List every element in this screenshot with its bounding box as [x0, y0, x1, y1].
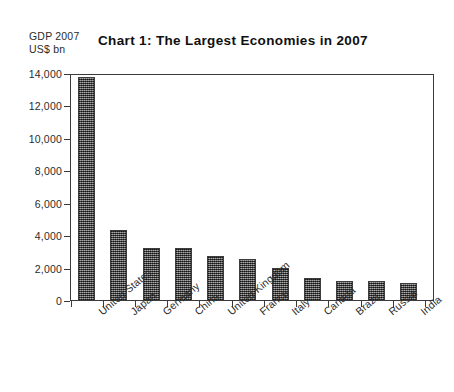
y-tick-label: 12,000: [0, 100, 62, 112]
x-tick-label: Russia: [386, 308, 394, 317]
x-tick-label: United Kingdom: [225, 308, 233, 317]
x-tick-label: Italy: [289, 308, 297, 317]
x-tick-mark: [71, 301, 72, 307]
y-tick-label: 0: [0, 295, 62, 307]
x-tick-label: India: [418, 308, 426, 317]
x-tick-label: China: [192, 308, 200, 317]
y-tick-label: 14,000: [0, 68, 62, 80]
y-axis: 14,00012,00010,0008,0006,0004,0002,0000: [0, 74, 62, 301]
x-tick-label: Japan: [128, 308, 136, 317]
y-tick-label: 6,000: [0, 198, 62, 210]
chart-figure: GDP 2007 US$ bn Chart 1: The Largest Eco…: [0, 0, 454, 392]
y-tick-label: 8,000: [0, 165, 62, 177]
y-tick-label: 10,000: [0, 133, 62, 145]
x-tick-label: Brazil: [353, 308, 361, 317]
bar: [78, 77, 95, 301]
y-axis-caption: GDP 2007 US$ bn: [29, 30, 79, 55]
bar-series: [70, 74, 434, 301]
x-axis: United StatesJapanGermanyChinaUnited Kin…: [70, 308, 454, 392]
x-tick-label: Canada: [321, 308, 329, 317]
chart-title: Chart 1: The Largest Economies in 2007: [98, 33, 368, 48]
x-tick-label: France: [257, 308, 265, 317]
x-tick-label: Germany: [160, 308, 168, 317]
x-tick-label: United States: [96, 308, 104, 317]
y-tick-label: 2,000: [0, 263, 62, 275]
y-tick-label: 4,000: [0, 230, 62, 242]
